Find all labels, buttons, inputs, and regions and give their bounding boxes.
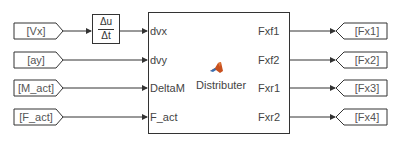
from-tag-f-act-label: [F_act] xyxy=(14,112,58,123)
derivative-denominator: Δt xyxy=(93,31,119,41)
goto-tag-fx4-label: [Fx4] xyxy=(350,112,384,123)
goto-tag-fx1-label: [Fx1] xyxy=(350,26,384,37)
input-port-deltam: DeltaM xyxy=(150,83,185,94)
input-port-f-act: F_act xyxy=(150,112,178,123)
derivative-block[interactable]: Δu Δt xyxy=(92,14,120,44)
output-port-fxf2: Fxf2 xyxy=(258,55,279,66)
output-port-fxr2: Fxr2 xyxy=(258,112,280,123)
goto-tag-fx2-label: [Fx2] xyxy=(350,55,384,66)
distributer-block-name: Distributer xyxy=(196,80,246,91)
input-port-dvy: dvy xyxy=(150,55,167,66)
from-tag-vx-label: [Vx] xyxy=(14,26,58,37)
derivative-numerator: Δu xyxy=(93,17,119,27)
goto-tag-fx3-label: [Fx3] xyxy=(350,83,384,94)
from-tag-ay-label: [ay] xyxy=(14,55,58,66)
input-port-dvx: dvx xyxy=(150,26,167,37)
from-tag-m-act-label: [M_act] xyxy=(14,83,58,94)
output-port-fxf1: Fxf1 xyxy=(258,26,279,37)
output-port-fxr1: Fxr1 xyxy=(258,83,280,94)
